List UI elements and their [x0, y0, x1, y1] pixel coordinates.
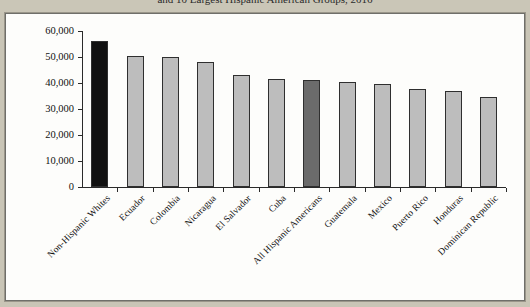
x-axis-tick [259, 188, 260, 192]
x-axis-category-label: Dominican Republic [436, 193, 500, 257]
x-axis-category-label: Non-Hispanic Whites [45, 193, 112, 260]
y-axis-tick [78, 83, 82, 84]
y-axis-tick [78, 109, 82, 110]
bar [268, 79, 285, 187]
x-axis-category-label: Puerto Rico [390, 193, 430, 233]
x-axis-tick [294, 188, 295, 192]
y-axis-label: 40,000 [16, 78, 74, 89]
y-axis-label: 20,000 [16, 130, 74, 141]
x-axis-tick [506, 188, 507, 192]
y-axis-label: 60,000 [16, 26, 74, 37]
x-axis-tick [117, 188, 118, 192]
bar-chart-plot: 010,00020,00030,00040,00050,00060,000Non… [6, 14, 524, 300]
x-axis-tick [188, 188, 189, 192]
x-axis-category-label: Cuba [267, 193, 289, 215]
bar [197, 62, 214, 187]
x-axis-tick [471, 188, 472, 192]
y-axis-tick [78, 57, 82, 58]
x-axis-tick [223, 188, 224, 192]
y-axis-label: 30,000 [16, 104, 74, 115]
x-axis-category-label: Honduras [431, 193, 465, 227]
bar [127, 56, 144, 187]
figure-page: and 10 Largest Hispanic American Groups,… [0, 0, 530, 307]
y-axis-label: 10,000 [16, 156, 74, 167]
y-axis-label: 50,000 [16, 52, 74, 63]
bar [445, 91, 462, 187]
x-axis-category-label: Guatemala [322, 193, 359, 230]
x-axis-category-label: All Hispanic Americans [251, 193, 324, 266]
x-axis-tick [400, 188, 401, 192]
y-axis-tick [78, 31, 82, 32]
bar [339, 82, 356, 187]
bar [91, 41, 108, 187]
x-axis-tick [329, 188, 330, 192]
x-axis-category-label: Colombia [148, 193, 182, 227]
bar [409, 89, 426, 187]
bar [480, 97, 497, 187]
y-axis-label: 0 [16, 182, 74, 193]
x-axis-category-label: El Salvador [214, 193, 253, 232]
x-axis-tick [153, 188, 154, 192]
chart-title: and 10 Largest Hispanic American Groups,… [0, 0, 530, 5]
bar [303, 80, 320, 187]
bar [233, 75, 250, 187]
x-axis-tick [435, 188, 436, 192]
x-axis-category-label: Mexico [366, 193, 394, 221]
y-axis-tick [78, 135, 82, 136]
x-axis-tick [365, 188, 366, 192]
y-axis-tick [78, 187, 82, 188]
chart-panel: 010,00020,00030,00040,00050,00060,000Non… [5, 13, 525, 301]
bar [374, 84, 391, 187]
bar [162, 57, 179, 187]
y-axis-tick [78, 161, 82, 162]
chart-title-strip: and 10 Largest Hispanic American Groups,… [0, 0, 530, 13]
x-axis-category-label: Ecuador [117, 193, 147, 223]
x-axis-category-label: Nicaragua [183, 193, 218, 228]
y-axis-line [82, 31, 83, 188]
